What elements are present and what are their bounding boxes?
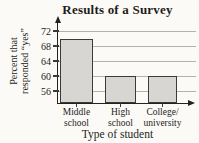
y-axis-label-line-1: Percent that	[8, 13, 19, 109]
x-category-label-college-university: College/ university	[137, 107, 189, 128]
y-tick-label-68: 68	[31, 41, 51, 52]
bar-college-university	[148, 76, 177, 103]
bar-high-school	[105, 76, 136, 103]
y-tick-mark-64	[53, 60, 59, 61]
y-tick-label-72: 72	[31, 26, 51, 37]
y-tick-label-64: 64	[31, 56, 51, 67]
y-tick-label-60: 60	[31, 71, 51, 82]
y-axis-label-line-2: responded “yes”	[19, 13, 30, 109]
y-tick-label-56: 56	[31, 86, 51, 97]
y-tick-mark-72	[53, 30, 59, 31]
gridline-72	[57, 31, 196, 32]
y-axis-arrow-icon	[55, 16, 61, 23]
y-tick-mark-56	[53, 90, 59, 91]
y-axis-label: Percent that responded “yes”	[8, 13, 30, 109]
bar-middle-school	[60, 39, 93, 104]
x-axis-arrow-icon	[188, 100, 195, 106]
chart-title: Results of a Survey	[40, 2, 195, 18]
y-tick-mark-68	[53, 45, 59, 46]
x-axis-label: Type of student	[40, 128, 195, 140]
survey-bar-chart-figure: Results of a Survey Percent that respond…	[0, 0, 199, 143]
y-tick-mark-60	[53, 75, 59, 76]
